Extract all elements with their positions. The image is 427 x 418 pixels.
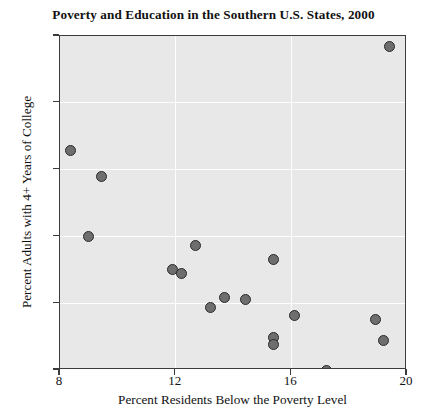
y-tick-mark	[53, 34, 59, 35]
gridline-horizontal	[60, 169, 405, 170]
data-point	[268, 339, 279, 350]
x-tick-mark	[58, 369, 59, 375]
y-tick-mark	[53, 101, 59, 102]
plot-area	[59, 35, 406, 369]
data-point	[205, 302, 216, 313]
scatter-plot-figure: Poverty and Education in the Southern U.…	[0, 0, 427, 418]
data-point	[240, 294, 251, 305]
y-tick-mark	[53, 302, 59, 303]
gridline-horizontal	[60, 303, 405, 304]
x-tick-label: 20	[386, 374, 426, 387]
data-point	[96, 171, 107, 182]
x-tick-label: 8	[39, 374, 79, 387]
data-point	[384, 41, 395, 52]
gridline-horizontal	[60, 236, 405, 237]
x-tick-label: 12	[155, 374, 195, 387]
data-point	[321, 365, 332, 370]
data-point	[268, 254, 279, 265]
y-axis-label: Percent Adults with 4+ Years of College	[19, 35, 35, 369]
x-axis-label: Percent Residents Below the Poverty Leve…	[59, 392, 406, 408]
data-point	[370, 314, 381, 325]
data-point	[65, 145, 76, 156]
x-tick-label: 16	[270, 374, 310, 387]
x-tick-mark	[290, 369, 291, 375]
x-tick-mark	[405, 369, 406, 375]
data-point	[83, 231, 94, 242]
data-point	[190, 240, 201, 251]
data-point	[378, 335, 389, 346]
data-point	[289, 310, 300, 321]
gridline-vertical	[175, 36, 176, 368]
y-tick-mark	[53, 168, 59, 169]
x-tick-mark	[174, 369, 175, 375]
data-point	[176, 268, 187, 279]
gridline-horizontal	[60, 102, 405, 103]
y-tick-mark	[53, 235, 59, 236]
chart-title: Poverty and Education in the Southern U.…	[0, 7, 427, 23]
